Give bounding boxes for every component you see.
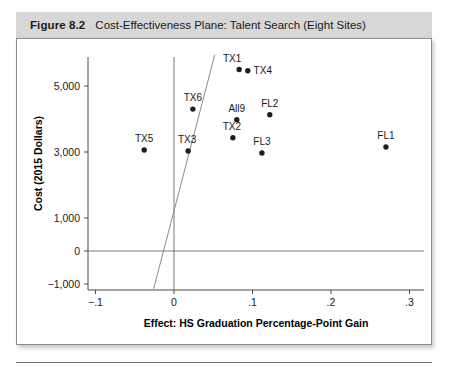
- figure-title: Cost-Effectiveness Plane: Talent Search …: [95, 19, 366, 31]
- figure-caption: Figure 8.2Cost-Effectiveness Plane: Tale…: [30, 19, 366, 31]
- figure-caption-band: Figure 8.2Cost-Effectiveness Plane: Tale…: [16, 12, 432, 38]
- figure-number: Figure 8.2: [30, 19, 85, 31]
- figure-panel: [16, 38, 432, 345]
- figure-bottom-rule: [16, 362, 432, 363]
- figure-page: Figure 8.2Cost-Effectiveness Plane: Tale…: [0, 0, 449, 375]
